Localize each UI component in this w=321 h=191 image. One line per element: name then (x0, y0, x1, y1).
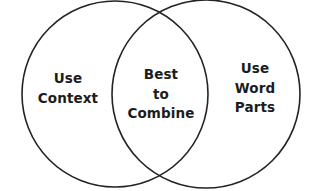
right-set-label: Use Word Parts (235, 59, 275, 118)
venn-diagram: Use Context Best to Combine Use Word Par… (0, 0, 321, 191)
intersection-label-line-2: to (127, 84, 194, 104)
right-set-label-line-2: Word (235, 78, 275, 98)
intersection-label-line-3: Combine (127, 104, 194, 124)
right-set-label-line-1: Use (235, 59, 275, 79)
left-set-label-line-2: Context (38, 88, 98, 108)
left-set-label-line-1: Use (38, 69, 98, 89)
left-set-label: Use Context (38, 69, 98, 108)
right-set-label-line-3: Parts (235, 98, 275, 118)
intersection-label-line-1: Best (127, 65, 194, 85)
intersection-label: Best to Combine (127, 65, 194, 124)
